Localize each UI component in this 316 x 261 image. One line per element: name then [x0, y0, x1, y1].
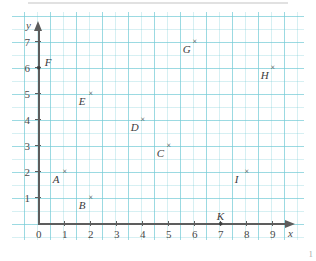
point-label-A: A [53, 173, 60, 185]
cross-marker-icon: × [89, 194, 94, 202]
point-label-G: G [183, 43, 191, 55]
point-label-I: I [235, 173, 239, 185]
figure-page: 0123456789 1234567 x y ×A×B×C×D×EF×G×H×I… [0, 0, 316, 261]
cross-marker-icon: × [271, 64, 276, 72]
y-axis-tick-labels: 1234567 [16, 0, 30, 261]
y-tick-7 [35, 41, 41, 42]
x-tick-label-1: 1 [62, 228, 68, 240]
y-tick-label-1: 1 [25, 192, 31, 204]
y-axis-arrow-icon [34, 21, 42, 31]
cross-marker-icon: × [141, 116, 146, 124]
y-tick-label-2: 2 [25, 166, 31, 178]
y-tick-label-3: 3 [25, 140, 31, 152]
x-tick-8 [246, 221, 247, 226]
x-tick-5 [168, 221, 169, 226]
point-label-F: F [45, 56, 52, 68]
cross-marker-icon: × [167, 142, 172, 150]
y-tick-2 [35, 171, 41, 172]
y-tick-label-5: 5 [25, 88, 31, 100]
y-tick-label-7: 7 [25, 36, 31, 48]
x-tick-9 [272, 221, 273, 226]
x-tick-label-3: 3 [114, 228, 120, 240]
cross-marker-icon: × [89, 90, 94, 98]
point-label-B: B [79, 199, 86, 211]
y-tick-4 [35, 119, 41, 120]
x-tick-1 [64, 221, 65, 226]
point-label-K: K [217, 210, 224, 222]
point-label-H: H [261, 69, 269, 81]
x-tick-label-0: 0 [36, 228, 42, 240]
x-tick-label-5: 5 [166, 228, 172, 240]
cross-marker-icon: × [193, 38, 198, 46]
x-axis-name: x [288, 227, 293, 239]
graph-paper-grid [12, 12, 304, 240]
x-tick-label-4: 4 [140, 228, 146, 240]
x-tick-4 [142, 221, 143, 226]
y-tick-label-4: 4 [25, 114, 31, 126]
x-axis-line [38, 223, 287, 225]
x-tick-label-6: 6 [192, 228, 198, 240]
dot-marker-icon [219, 222, 223, 226]
y-tick-5 [35, 93, 41, 94]
point-label-D: D [131, 121, 139, 133]
x-tick-2 [90, 221, 91, 226]
y-axis-line [38, 30, 40, 224]
scan-artifact-top [28, 2, 288, 4]
y-axis-name: y [26, 19, 31, 31]
y-tick-label-6: 6 [25, 62, 31, 74]
x-tick-label-9: 9 [270, 228, 276, 240]
x-tick-6 [194, 221, 195, 226]
y-tick-1 [35, 197, 41, 198]
x-tick-label-2: 2 [88, 228, 94, 240]
page-number: 1 [309, 249, 314, 259]
point-label-E: E [79, 95, 86, 107]
cross-marker-icon: × [245, 168, 250, 176]
x-tick-label-8: 8 [244, 228, 250, 240]
x-tick-label-7: 7 [218, 228, 224, 240]
x-tick-3 [116, 221, 117, 226]
y-tick-3 [35, 145, 41, 146]
dot-marker-icon [37, 66, 41, 70]
cross-marker-icon: × [63, 168, 68, 176]
point-label-C: C [157, 147, 164, 159]
